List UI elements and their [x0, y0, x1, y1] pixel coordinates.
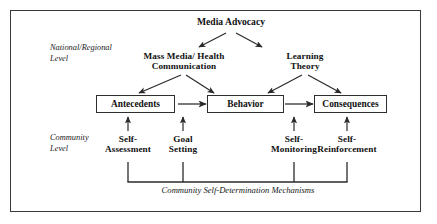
mechanism-goal-setting-line2: Setting [148, 144, 218, 154]
diagram-figure: Media Advocacy National/Regional Level C… [0, 0, 437, 224]
mechanism-self-reinforcement-line1: Self- [302, 134, 392, 144]
box-antecedents-label: Antecedents [111, 99, 160, 109]
mechanism-goal-setting: Goal Setting [148, 134, 218, 155]
box-consequences: Consequences [314, 95, 387, 113]
node-media-advocacy: Media Advocacy [181, 17, 281, 28]
node-mass-media-line1: Mass Media/ Health [119, 51, 249, 61]
node-learning-line2: Theory [265, 61, 345, 71]
node-mass-media-line2: Communication [119, 61, 249, 71]
node-mass-media-health-communication: Mass Media/ Health Communication [119, 51, 249, 72]
mechanism-self-reinforcement-line2: Reinforcement [302, 144, 392, 154]
box-behavior-label: Behavior [227, 99, 263, 109]
node-learning-line1: Learning [265, 51, 345, 61]
node-learning-theory: Learning Theory [265, 51, 345, 72]
box-consequences-label: Consequences [322, 99, 378, 109]
box-antecedents: Antecedents [96, 95, 175, 113]
mechanism-self-reinforcement: Self- Reinforcement [302, 134, 392, 155]
bracket-caption: Community Self-Determination Mechanisms [128, 186, 348, 196]
mechanism-goal-setting-line1: Goal [148, 134, 218, 144]
box-behavior: Behavior [207, 95, 284, 113]
